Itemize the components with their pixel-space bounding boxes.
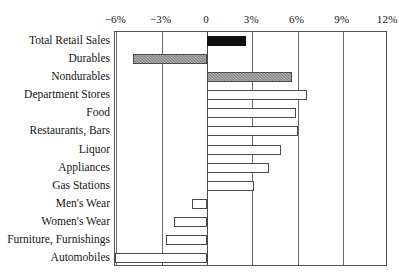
bar xyxy=(207,181,254,191)
x-tick-label: 12% xyxy=(377,14,398,25)
category-label: Total Retail Sales xyxy=(29,34,110,46)
category-label: Nondurables xyxy=(51,70,110,82)
gridline xyxy=(162,32,163,265)
bar xyxy=(207,163,269,173)
category-label: Durables xyxy=(68,52,110,64)
bar xyxy=(207,90,307,100)
category-label: Liquor xyxy=(79,143,110,155)
bar xyxy=(166,235,207,245)
category-label: Food xyxy=(86,106,110,118)
bar xyxy=(207,126,298,136)
bar xyxy=(207,145,281,155)
bar xyxy=(207,72,292,82)
bar xyxy=(115,253,207,263)
x-tick-label: 9% xyxy=(334,14,349,25)
category-label: Automobiles xyxy=(51,251,110,263)
x-tick-label: 0 xyxy=(203,14,209,25)
bar-chart: −6%−3%03%6%9%12% Total Retail SalesDurab… xyxy=(0,0,399,274)
x-tick-label: −6% xyxy=(105,14,126,25)
category-label: Appliances xyxy=(58,161,110,173)
bar xyxy=(174,217,207,227)
plot-area xyxy=(114,31,387,266)
x-tick-label: 3% xyxy=(244,14,259,25)
bar xyxy=(207,108,296,118)
bar xyxy=(207,36,246,46)
category-label: Department Stores xyxy=(24,88,110,100)
category-label: Furniture, Furnishings xyxy=(7,233,110,245)
category-label: Restaurants, Bars xyxy=(30,124,110,136)
category-label: Gas Stations xyxy=(52,179,110,191)
bar xyxy=(192,199,207,209)
x-tick-label: −3% xyxy=(150,14,171,25)
bar xyxy=(133,54,207,64)
gridline xyxy=(298,32,299,265)
category-label: Men's Wear xyxy=(56,197,110,209)
gridline xyxy=(116,32,117,265)
gridline xyxy=(343,32,344,265)
x-tick-label: 6% xyxy=(289,14,304,25)
category-label: Women's Wear xyxy=(41,215,110,227)
